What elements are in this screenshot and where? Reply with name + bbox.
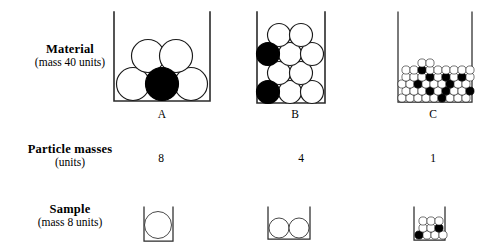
sample-particles-b xyxy=(269,218,309,238)
container-letter-c: C xyxy=(413,108,453,120)
particle-filled xyxy=(146,68,179,101)
particle-open xyxy=(426,59,434,67)
material-container-b xyxy=(255,10,333,105)
row-title-sample: Sample xyxy=(6,202,134,216)
particle-filled xyxy=(257,43,280,66)
sample-particles-a xyxy=(145,212,172,239)
particle-open xyxy=(466,66,474,74)
particle-open xyxy=(289,218,309,238)
particle-open xyxy=(434,66,442,74)
particle-mass-value-a: 8 xyxy=(141,152,181,164)
diagram-canvas: Material (mass 40 units) A xyxy=(0,0,482,249)
particle-open xyxy=(145,212,172,239)
row-label-sample: Sample (mass 8 units) xyxy=(6,202,134,229)
particles-b xyxy=(257,24,324,104)
row-title-particle-masses: Particle masses xyxy=(6,142,134,156)
sample-container-b xyxy=(267,205,319,247)
particle-open xyxy=(458,66,466,74)
row-subtitle-sample: (mass 8 units) xyxy=(6,216,134,229)
particle-open xyxy=(450,66,458,74)
particle-open xyxy=(269,218,289,238)
sample-particles-c xyxy=(415,217,447,239)
row-label-particle-masses: Particle masses (units) xyxy=(6,142,134,169)
sample-container-c xyxy=(413,205,453,247)
row-subtitle-particle-masses: (units) xyxy=(6,156,134,169)
sample-container-a xyxy=(142,205,182,247)
particle-open xyxy=(442,66,450,74)
particle-open xyxy=(427,217,435,225)
particle-open xyxy=(418,59,426,67)
particle-filled xyxy=(257,81,280,104)
particles-c xyxy=(398,59,474,102)
particle-open xyxy=(435,217,443,225)
material-container-c xyxy=(396,10,480,105)
particle-mass-value-c: 1 xyxy=(413,152,453,164)
particle-mass-value-b: 4 xyxy=(281,152,321,164)
particle-open xyxy=(402,66,410,74)
particles-a xyxy=(117,40,208,101)
particle-open xyxy=(410,66,418,74)
particle-open xyxy=(419,217,427,225)
material-container-a xyxy=(110,10,214,105)
particle-open xyxy=(290,24,313,47)
container-letter-b: B xyxy=(275,108,315,120)
container-letter-a: A xyxy=(142,108,182,120)
